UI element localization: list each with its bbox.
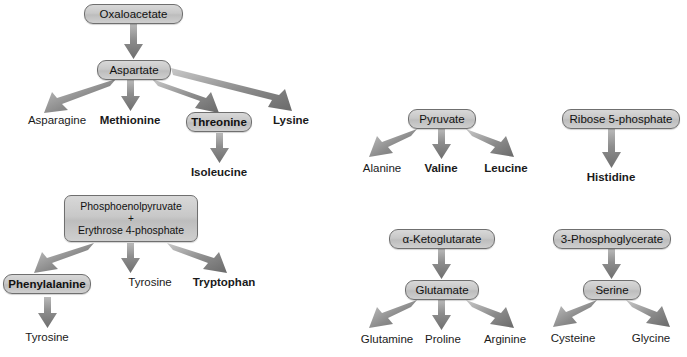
- arrow-glutamate-to-glutamine: [369, 300, 417, 328]
- label-tyrosine-from-phenylalanine: Tyrosine: [25, 331, 68, 343]
- node-ketoglutarate[interactable]: α-Ketoglutarate: [389, 229, 495, 249]
- label-methionine: Methionine: [100, 114, 161, 126]
- arrow-serine-to-cysteine: [553, 300, 597, 327]
- label-leucine: Leucine: [484, 162, 527, 174]
- node-pep-plus: +: [128, 214, 134, 224]
- node-oxaloacetate[interactable]: Oxaloacetate: [84, 4, 183, 24]
- node-pyruvate[interactable]: Pyruvate: [408, 109, 476, 129]
- label-cysteine: Cysteine: [551, 332, 596, 344]
- label-isoleucine: Isoleucine: [191, 166, 247, 178]
- label-tryptophan: Tryptophan: [193, 276, 256, 288]
- arrow-layer: [0, 0, 687, 357]
- label-glycine: Glycine: [632, 332, 670, 344]
- arrow-serine-to-glycine: [626, 300, 670, 327]
- arrow-ribose5p-to-histidine: [602, 129, 621, 168]
- label-lysine: Lysine: [273, 114, 309, 126]
- node-glutamate[interactable]: Glutamate: [405, 280, 479, 300]
- pathway-diagram: Oxaloacetate Aspartate Asparagine Methio…: [0, 0, 687, 357]
- label-phenylalanine[interactable]: Phenylalanine: [3, 274, 91, 294]
- node-pyruvate-label: Pyruvate: [419, 113, 464, 126]
- node-glutamate-label: Glutamate: [415, 284, 468, 297]
- label-asparagine: Asparagine: [28, 114, 86, 126]
- arrow-phenylalanine-to-tyrosine: [38, 297, 57, 328]
- arrow-pyruvate-to-valine: [432, 129, 451, 159]
- label-tyrosine-from-pep: Tyrosine: [128, 276, 171, 288]
- label-glutamine: Glutamine: [361, 333, 413, 345]
- arrow-phosphoglycerate-to-serine: [602, 249, 621, 279]
- label-arginine: Arginine: [484, 333, 526, 345]
- arrow-threonine-to-isoleucine: [210, 133, 229, 163]
- node-ribose5p[interactable]: Ribose 5-phosphate: [562, 109, 680, 129]
- arrow-aspartate-to-threonine: [152, 79, 219, 113]
- label-valine: Valine: [424, 162, 457, 174]
- node-pep-line1: Phosphoenolpyruvate: [80, 200, 182, 213]
- arrow-aspartate-to-lysine: [171, 68, 292, 111]
- node-ribose5p-label: Ribose 5-phosphate: [570, 113, 673, 126]
- node-serine-label: Serine: [595, 284, 628, 297]
- arrow-pyruvate-to-leucine: [466, 129, 514, 157]
- node-aspartate[interactable]: Aspartate: [97, 60, 171, 80]
- arrow-pep-to-tryptophan: [167, 243, 227, 273]
- arrow-glutamate-to-arginine: [466, 300, 514, 328]
- label-alanine: Alanine: [363, 162, 401, 174]
- arrow-pyruvate-to-alanine: [369, 129, 417, 157]
- arrow-aspartate-to-asparagine: [44, 79, 116, 113]
- node-phosphoglycerate[interactable]: 3-Phosphoglycerate: [553, 229, 671, 249]
- label-proline: Proline: [425, 333, 461, 345]
- node-oxaloacetate-label: Oxaloacetate: [100, 8, 168, 21]
- node-ketoglutarate-label: α-Ketoglutarate: [403, 233, 482, 246]
- node-phosphoglycerate-label: 3-Phosphoglycerate: [561, 233, 663, 246]
- node-serine[interactable]: Serine: [583, 280, 641, 300]
- node-pep-erythrose4p[interactable]: Phosphoenolpyruvate + Erythrose 4-phosph…: [64, 195, 198, 242]
- node-pep-line3: Erythrose 4-phosphate: [78, 224, 184, 237]
- label-threonine[interactable]: Threonine: [186, 112, 252, 132]
- label-histidine: Histidine: [587, 171, 636, 183]
- node-aspartate-label: Aspartate: [109, 64, 158, 77]
- arrow-pep-to-phenylalanine: [34, 243, 94, 273]
- arrow-glutamate-to-proline: [432, 300, 451, 330]
- arrow-pep-to-tyrosine: [121, 243, 140, 273]
- arrow-ketoglutarate-to-glutamate: [432, 249, 451, 279]
- arrow-aspartate-to-methionine: [121, 80, 140, 111]
- arrow-oxaloacetate-to-aspartate: [124, 24, 143, 59]
